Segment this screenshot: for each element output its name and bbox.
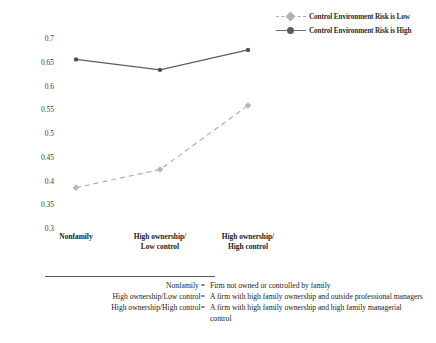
x-axis-tick-labels: NonfamilyHigh ownership/Low controlHigh … (0, 232, 300, 268)
note-row: High ownership/Low control=A firm with h… (45, 292, 425, 303)
line-chart: 0.70.650.60.550.50.450.40.350.3 Nonfamil… (0, 0, 300, 240)
series-low (73, 102, 252, 191)
definitions-block: Nonfamily =Firm not owned or controlled … (45, 276, 425, 325)
data-point (73, 184, 80, 191)
note-definition: A firm with high family ownership and ou… (210, 292, 423, 303)
note-term: High ownership/High control= (45, 303, 210, 314)
note-definition: Firm not owned or controlled by family (210, 281, 331, 292)
x-axis-tick: High ownership/Low control (115, 232, 205, 251)
chart-plot-svg (0, 0, 300, 240)
legend-item-high: Control Environment Risk is High (276, 24, 436, 38)
x-axis-tick: High ownership/High control (203, 232, 293, 251)
chart-legend: Control Environment Risk is Low Control … (276, 10, 436, 38)
note-definition: A firm with high family ownership and hi… (210, 303, 425, 324)
legend-label-high: Control Environment Risk is High (309, 27, 411, 35)
legend-label-low: Control Environment Risk is Low (309, 13, 410, 21)
legend-item-low: Control Environment Risk is Low (276, 10, 436, 24)
notes-list: Nonfamily =Firm not owned or controlled … (45, 281, 425, 324)
data-point (74, 57, 78, 61)
data-point (246, 48, 250, 52)
note-term: High ownership/Low control= (45, 292, 210, 303)
data-point (158, 68, 162, 72)
note-row: High ownership/High control=A firm with … (45, 303, 425, 324)
data-point (157, 166, 164, 173)
notes-divider (45, 276, 215, 277)
series-line (76, 50, 248, 70)
note-row: Nonfamily =Firm not owned or controlled … (45, 281, 425, 292)
series-high (74, 48, 250, 72)
series-line (76, 105, 248, 187)
note-term: Nonfamily = (45, 281, 210, 292)
x-axis-tick: Nonfamily (31, 232, 121, 242)
